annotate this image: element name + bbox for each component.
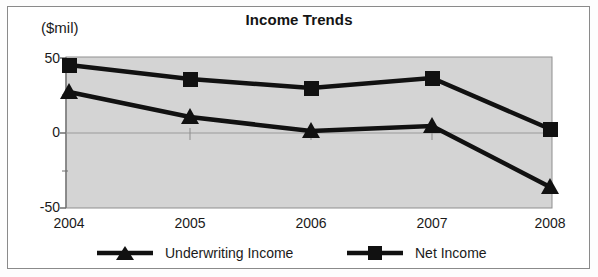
data-point-marker-net-income xyxy=(425,71,440,86)
legend-item-net-income: Net Income xyxy=(345,240,487,266)
data-point-marker-net-income xyxy=(304,81,319,96)
data-point-marker-net-income xyxy=(543,122,558,137)
square-marker-icon xyxy=(345,243,405,263)
x-axis-tick-label-2005: 2005 xyxy=(155,215,225,231)
x-axis-tick-label-2006: 2006 xyxy=(276,215,346,231)
plot-area xyxy=(0,0,598,277)
chart-figure: Income Trends ($mil) 50 0 -50 xyxy=(0,0,598,277)
data-point-marker-net-income xyxy=(183,72,198,87)
x-axis-tick-label-2007: 2007 xyxy=(397,215,467,231)
legend-item-underwriting-income: Underwriting Income xyxy=(95,240,293,266)
triangle-marker-icon xyxy=(95,243,155,263)
legend-label-underwriting-income: Underwriting Income xyxy=(165,245,293,261)
chart-legend: Underwriting Income Net Income xyxy=(95,240,515,266)
legend-label-net-income: Net Income xyxy=(415,245,487,261)
x-axis-tick-label-2008: 2008 xyxy=(515,215,585,231)
x-axis-tick-label-2004: 2004 xyxy=(34,215,104,231)
data-point-marker-net-income xyxy=(62,58,77,73)
